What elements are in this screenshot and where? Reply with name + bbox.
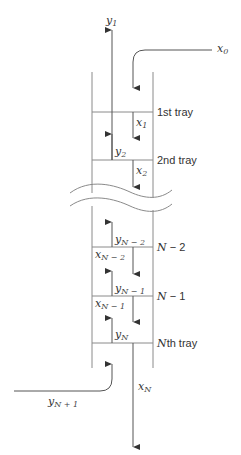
tray-label-2nd: 2nd tray (157, 154, 197, 166)
tray-label-n-1: N − 1 (156, 290, 185, 303)
label-y-n+1: yN + 1 (47, 395, 78, 409)
label-x-n-2: xN − 2 (95, 248, 125, 262)
tray-column-diagram: y1 x0 x1 y2 1st tray x2 2nd tray yN − 2 … (0, 0, 241, 455)
stream-x0-arrow (133, 50, 212, 88)
label-x1: x1 (136, 116, 147, 130)
label-xn: xN (138, 380, 152, 394)
tray-label-nth: Nth tray (156, 337, 198, 350)
label-y2: y2 (114, 145, 126, 159)
label-y-n: yN (114, 328, 129, 342)
label-y-n-2: yN − 2 (114, 233, 145, 247)
break-lines (70, 184, 172, 211)
label-x-n-1: xN − 1 (95, 297, 125, 311)
stream-y-n+1-arrow (14, 364, 112, 391)
label-x0: x0 (217, 42, 228, 56)
tray-label-n-2: N − 2 (156, 241, 185, 254)
label-x2: x2 (136, 164, 147, 178)
column-walls-upper (92, 72, 153, 198)
label-y1: y1 (105, 14, 117, 28)
label-y-n-1: yN − 1 (114, 282, 145, 296)
tray-label-1st: 1st tray (157, 106, 194, 118)
